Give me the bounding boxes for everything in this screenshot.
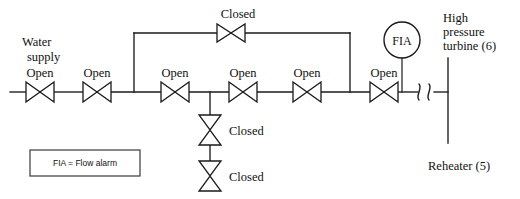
legend-text: FIA = Flow alarm xyxy=(53,158,117,168)
valve-4-symbol[interactable] xyxy=(229,82,257,102)
valve-bypass-symbol[interactable] xyxy=(217,24,245,42)
pid-canvas: FIA FIA = Flow alarm Water supply Open O… xyxy=(0,0,520,199)
valve-2-symbol[interactable] xyxy=(83,82,111,102)
fia-tag-label: FIA xyxy=(392,34,412,48)
valve-drain-lower-state-label: Closed xyxy=(229,170,264,184)
water-supply-label-line2: supply xyxy=(27,50,61,64)
flow-alarm-instrument[interactable]: FIA xyxy=(384,22,420,58)
valve-5-symbol[interactable] xyxy=(293,82,321,102)
legend: FIA = Flow alarm xyxy=(30,150,140,176)
valve-drain-upper-state-label: Closed xyxy=(229,124,264,138)
valve-drain-upper-symbol[interactable] xyxy=(199,115,221,145)
hp-turbine-label-line2: pressure xyxy=(443,25,485,39)
valve-1-symbol[interactable] xyxy=(26,82,54,102)
valve-drain-lower-symbol[interactable] xyxy=(199,161,221,191)
valve-3-state-label: Open xyxy=(161,66,189,80)
valve-6-state-label: Open xyxy=(370,66,398,80)
break-curve-right xyxy=(428,84,430,100)
valve-6-symbol[interactable] xyxy=(370,82,398,102)
valve-2-state-label: Open xyxy=(83,66,111,80)
valve-1-state-label: Open xyxy=(26,66,54,80)
water-supply-label-line1: Water xyxy=(22,35,52,49)
bypass-valve-symbols xyxy=(217,24,245,42)
pipe-break-symbol xyxy=(418,84,430,100)
valve-bypass-state-label: Closed xyxy=(221,7,256,21)
valve-3-symbol[interactable] xyxy=(161,82,189,102)
valve-4-state-label: Open xyxy=(229,66,257,80)
reheater-label: Reheater (5) xyxy=(428,159,490,173)
valve-5-state-label: Open xyxy=(293,66,321,80)
bypass-line xyxy=(134,33,350,92)
hp-turbine-label-line3: turbine (6) xyxy=(443,39,496,53)
pid-diagram-root: FIA FIA = Flow alarm Water supply Open O… xyxy=(0,0,520,199)
hp-turbine-label-line1: High xyxy=(443,11,469,25)
